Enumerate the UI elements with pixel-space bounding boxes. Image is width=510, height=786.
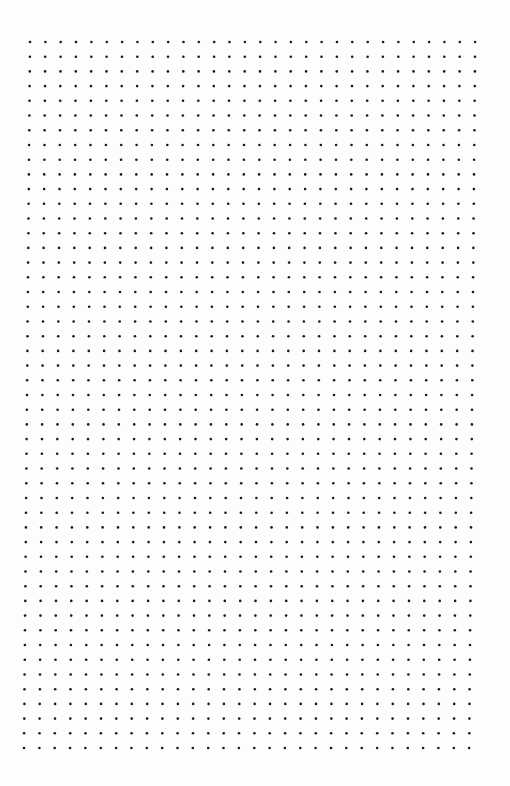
grid-dot [351,41,354,44]
grid-dot [56,482,59,485]
grid-dot [102,408,105,411]
grid-dot [470,497,473,500]
grid-dot [212,114,215,117]
grid-dot [90,114,93,117]
grid-dot [23,703,26,706]
grid-dot [104,217,107,220]
grid-dot [423,600,426,603]
grid-dot [258,129,261,132]
grid-dot [39,629,42,632]
grid-dot [363,467,366,470]
grid-dot [362,556,365,559]
grid-dot [73,203,76,206]
grid-dot [423,585,426,588]
grid-dot [411,203,414,206]
grid-dot [427,85,430,88]
grid-dot [28,100,31,103]
grid-dot [288,291,291,294]
grid-dot [454,614,457,617]
grid-dot [135,129,138,132]
grid-dot [410,291,413,294]
grid-dot [102,482,105,485]
grid-dot [393,526,396,529]
grid-dot [302,408,305,411]
grid-dot [254,585,257,588]
grid-dot [443,85,446,88]
grid-dot [469,585,472,588]
grid-dot [224,497,227,500]
grid-dot [242,232,245,235]
grid-dot [241,320,244,323]
grid-dot [117,438,120,441]
grid-dot [378,467,381,470]
grid-dot [257,291,260,294]
grid-dot [192,732,195,735]
grid-dot [469,673,472,676]
grid-dot [393,570,396,573]
grid-dot [241,408,244,411]
grid-dot [457,188,460,191]
grid-dot [69,732,72,735]
grid-dot [105,70,108,73]
grid-dot [256,394,259,397]
grid-dot [132,556,135,559]
grid-dot [333,335,336,338]
grid-dot [426,247,429,250]
grid-dot [27,217,30,220]
grid-dot [239,585,242,588]
grid-dot [25,467,28,470]
grid-dot [305,55,308,58]
grid-dot [422,747,425,750]
grid-dot [412,100,415,103]
grid-dot [471,335,474,338]
grid-dot [74,173,77,176]
grid-dot [379,379,382,382]
grid-dot [409,511,412,514]
grid-dot [376,673,379,676]
grid-dot [223,673,226,676]
grid-dot [165,306,168,309]
grid-dot [255,453,258,456]
grid-dot [441,350,444,353]
grid-dot [133,408,136,411]
grid-dot [458,114,461,117]
grid-dot [301,556,304,559]
grid-dot [25,497,28,500]
grid-dot [72,320,75,323]
grid-dot [301,467,304,470]
grid-dot [365,173,368,176]
grid-dot [365,247,368,250]
grid-dot [347,482,350,485]
grid-dot [473,100,476,103]
grid-dot [330,673,333,676]
grid-dot [85,614,88,617]
grid-dot [180,261,183,264]
grid-dot [331,629,334,632]
grid-dot [164,379,167,382]
grid-dot [346,629,349,632]
grid-dot [440,453,443,456]
grid-dot [85,688,88,691]
grid-dot [347,556,350,559]
grid-dot [287,408,290,411]
grid-dot [364,379,367,382]
grid-dot [197,100,200,103]
grid-dot [120,85,123,88]
grid-dot [242,217,245,220]
grid-dot [117,482,120,485]
grid-dot [227,203,230,206]
grid-dot [177,673,180,676]
grid-dot [303,291,306,294]
grid-dot [71,497,74,500]
grid-dot [163,511,166,514]
grid-dot [73,276,76,279]
grid-dot [100,659,103,662]
grid-dot [335,188,338,191]
grid-dot [102,511,105,514]
grid-dot [457,232,460,235]
grid-dot [238,673,241,676]
grid-dot [71,526,74,529]
grid-dot [131,614,134,617]
grid-dot [27,276,30,279]
grid-dot [132,526,135,529]
